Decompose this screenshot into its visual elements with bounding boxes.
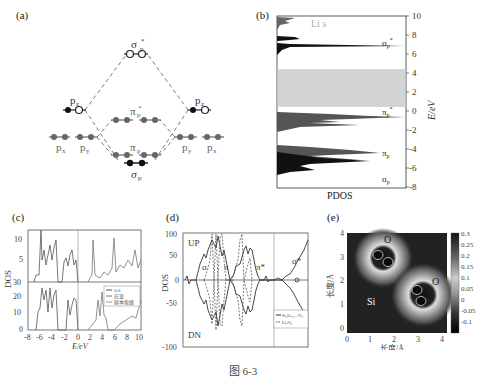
svg-text:-0.05: -0.05: [461, 307, 476, 315]
svg-text:0: 0: [175, 276, 179, 285]
dos-chart-c: 0.0 应变 原本能级 10530 20100 -8-6-4 -202 468 …: [0, 220, 160, 350]
svg-text:4: 4: [100, 333, 104, 342]
svg-text:E/eV: E/eV: [71, 342, 89, 350]
svg-text:E/eV: E/eV: [426, 99, 437, 121]
svg-text:-2: -2: [409, 125, 417, 135]
svg-text:-50: -50: [166, 299, 177, 308]
svg-text:Li₂O₂: Li₂O₂: [282, 320, 293, 325]
svg-text:10: 10: [412, 11, 422, 21]
svg-text:0: 0: [76, 333, 80, 342]
svg-text:6: 6: [113, 333, 117, 342]
pz-left-level: [63, 107, 86, 114]
svg-text:5: 5: [19, 255, 23, 264]
svg-text:π: π: [224, 262, 229, 272]
svg-text:4: 4: [412, 68, 417, 78]
svg-text:-4: -4: [409, 144, 417, 154]
svg-text:-8: -8: [24, 333, 31, 342]
svg-text:σ: σ: [202, 262, 207, 272]
svg-text:2: 2: [392, 335, 396, 344]
svg-text:DN: DN: [188, 330, 201, 340]
svg-text:2: 2: [88, 333, 92, 342]
svg-text:x: x: [62, 147, 66, 155]
svg-text:-8: -8: [409, 182, 417, 192]
sigma-star-level: [124, 51, 148, 58]
svg-text:O: O: [384, 234, 391, 245]
svg-text:1: 1: [340, 300, 344, 309]
svg-text:DOS: DOS: [160, 274, 170, 292]
svg-text:DOS: DOS: [3, 270, 13, 288]
px-py-left-levels: [49, 134, 97, 140]
svg-text:-0.1: -0.1: [461, 318, 473, 326]
dos-chart-d: UP DN σ π π* σ* Si₄Li₁₆₋ₓO₂ Li₂O₂ 100500…: [160, 220, 320, 350]
svg-text:长度/Å: 长度/Å: [325, 274, 335, 298]
svg-text:p: p: [138, 174, 142, 182]
pdos-chart: Li s σp* πp* πp σp 10 8 6 4 2 0 -2 -4 -6…: [270, 10, 486, 200]
svg-text:长度/Å: 长度/Å: [380, 343, 404, 350]
svg-text:0: 0: [345, 335, 349, 344]
svg-text:0: 0: [340, 324, 344, 333]
svg-text:2: 2: [412, 87, 417, 97]
svg-text:x: x: [213, 147, 217, 155]
sigma-star-label: σ: [131, 38, 137, 50]
svg-text:8: 8: [412, 30, 417, 40]
svg-text:-6: -6: [409, 163, 417, 173]
sigma-level: [124, 160, 148, 166]
svg-text:0.0: 0.0: [114, 288, 121, 293]
svg-text:π: π: [130, 141, 136, 153]
panel-label-b: (b): [256, 9, 269, 21]
svg-text:Si₄Li₁₆₋ₓO₂: Si₄Li₁₆₋ₓO₂: [282, 313, 303, 318]
svg-text:-6: -6: [36, 333, 43, 342]
charge-density-map: O O Si 0.30.250.2 0.150.10.05 0-0.05-0.1…: [320, 220, 486, 350]
svg-text:20: 20: [13, 292, 21, 301]
svg-text:8: 8: [125, 333, 129, 342]
svg-text:y: y: [86, 147, 90, 155]
svg-text:0.2: 0.2: [461, 252, 470, 260]
svg-text:0.1: 0.1: [461, 274, 470, 282]
svg-text:0.15: 0.15: [461, 263, 474, 271]
svg-text:Si: Si: [367, 296, 376, 307]
svg-text:O: O: [432, 276, 439, 287]
pi-level: [111, 152, 161, 158]
svg-text:-2: -2: [61, 333, 68, 342]
svg-text:原本能级: 原本能级: [114, 299, 134, 306]
svg-text:σ*: σ*: [292, 256, 302, 266]
colorbar: [451, 233, 459, 333]
svg-text:z: z: [76, 100, 79, 108]
svg-text:10: 10: [13, 308, 21, 317]
svg-text:50: 50: [169, 251, 177, 260]
svg-text:1: 1: [368, 335, 372, 344]
svg-text:6: 6: [412, 49, 417, 59]
svg-text:*: *: [138, 104, 142, 112]
svg-text:UP: UP: [188, 238, 200, 248]
svg-text:p: p: [140, 45, 144, 53]
svg-text:σ: σ: [131, 168, 137, 180]
svg-text:0.25: 0.25: [461, 241, 474, 249]
svg-text:30: 30: [13, 278, 21, 287]
svg-text:4: 4: [440, 335, 444, 344]
svg-text:PDOS: PDOS: [327, 190, 353, 200]
px-py-right-levels: [175, 134, 224, 140]
band-gap-region: [278, 69, 406, 107]
svg-text:y: y: [188, 147, 192, 155]
svg-text:应变: 应变: [114, 293, 124, 300]
svg-text:100: 100: [165, 230, 177, 239]
svg-text:z: z: [201, 100, 204, 108]
svg-text:-4: -4: [48, 333, 55, 342]
svg-text:3: 3: [340, 253, 344, 262]
svg-text:3: 3: [416, 335, 420, 344]
mo-diagram: σ p * p z p z π p * p x p y p y p: [0, 0, 250, 200]
svg-text:4: 4: [340, 229, 344, 238]
pi-star-level: [111, 117, 161, 123]
svg-text:p: p: [137, 147, 141, 155]
svg-text:0: 0: [461, 296, 465, 304]
pz-right-level: [188, 107, 211, 114]
svg-text:-100: -100: [162, 343, 177, 350]
svg-text:0.05: 0.05: [461, 285, 474, 293]
svg-text:10: 10: [14, 235, 22, 244]
svg-text:π: π: [130, 105, 136, 117]
svg-text:2: 2: [340, 276, 344, 285]
svg-text:0: 0: [412, 106, 417, 116]
svg-text:*: *: [141, 37, 145, 45]
svg-text:0.3: 0.3: [461, 230, 470, 238]
svg-text:π*: π*: [256, 262, 266, 272]
